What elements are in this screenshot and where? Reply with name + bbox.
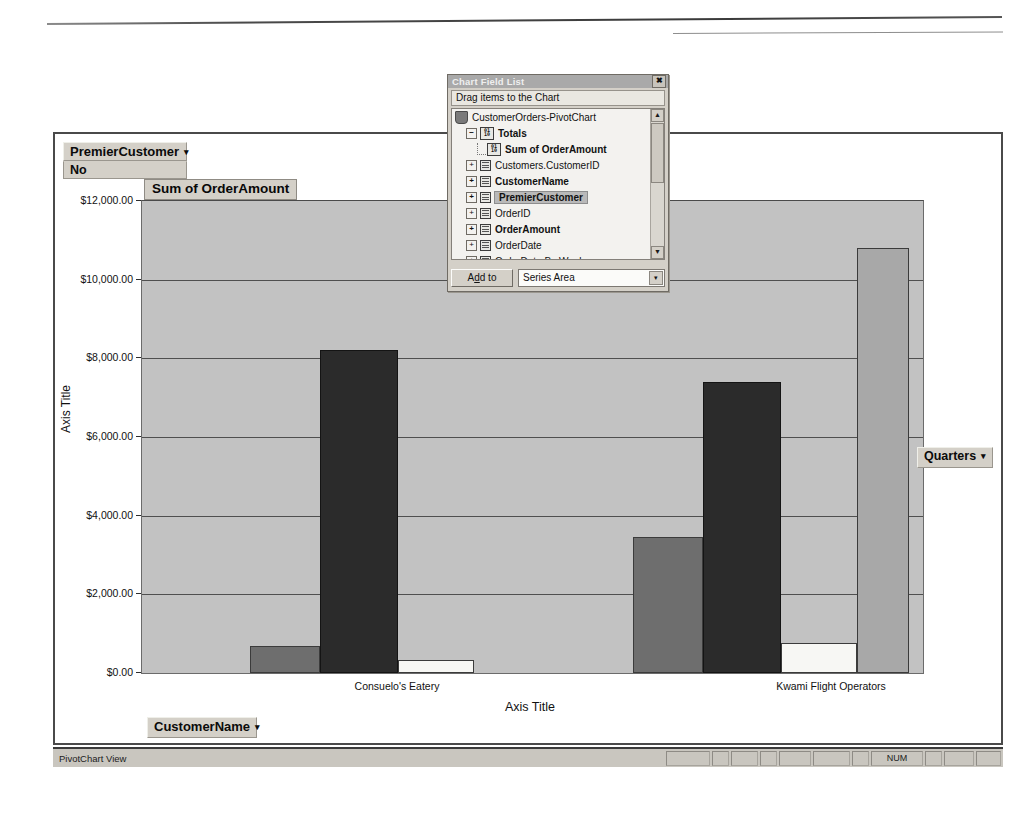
series-field-button[interactable]: Quarters▾ bbox=[917, 447, 993, 468]
field-list-scrollbar[interactable]: ▲ ▼ bbox=[650, 109, 664, 259]
field-icon bbox=[480, 160, 491, 171]
gridline bbox=[142, 358, 923, 359]
category-axis-tick-label: Consuelo's Eatery bbox=[287, 680, 507, 692]
dialog-titlebar[interactable]: Chart Field List ✖ bbox=[448, 75, 668, 88]
chevron-down-icon: ▾ bbox=[981, 451, 986, 461]
field-list-item-label: OrderID bbox=[495, 208, 531, 219]
status-panel bbox=[925, 751, 942, 766]
field-list-item-label: CustomerOrders-PivotChart bbox=[472, 112, 596, 123]
scroll-up-icon[interactable]: ▲ bbox=[651, 109, 664, 122]
status-panel bbox=[779, 751, 811, 766]
bar[interactable] bbox=[398, 660, 474, 673]
dialog-footer: Add to Series Area ▾ bbox=[451, 268, 665, 287]
field-list-item[interactable]: +OrderDate By Week bbox=[452, 253, 664, 260]
drop-area-combobox[interactable]: Series Area ▾ bbox=[518, 269, 665, 287]
field-list-item[interactable]: +OrderAmount bbox=[452, 221, 664, 237]
scroll-down-icon[interactable]: ▼ bbox=[651, 246, 664, 259]
scan-artifact-line-second bbox=[673, 32, 1003, 34]
value-axis-tick-label: $4,000.00 bbox=[57, 509, 133, 521]
numeric-icon: 0110 bbox=[480, 127, 494, 140]
chevron-down-icon: ▾ bbox=[255, 722, 260, 732]
expand-icon[interactable]: + bbox=[466, 192, 477, 203]
bar[interactable] bbox=[857, 248, 909, 673]
value-axis-tick-label: $0.00 bbox=[57, 666, 133, 678]
status-panel bbox=[976, 751, 1001, 766]
drop-area-value: Series Area bbox=[523, 272, 575, 283]
field-list-item-label: PremierCustomer bbox=[495, 192, 587, 203]
bar[interactable] bbox=[781, 643, 857, 673]
field-list-item[interactable]: 0110Sum of OrderAmount bbox=[452, 141, 664, 157]
status-panel bbox=[760, 751, 777, 766]
field-list-item-label: Sum of OrderAmount bbox=[505, 144, 607, 155]
value-axis-title: Axis Title bbox=[59, 385, 73, 433]
field-list-item[interactable]: +CustomerName bbox=[452, 173, 664, 189]
field-list-item[interactable]: +Customers.CustomerID bbox=[452, 157, 664, 173]
value-axis-tick-label: $2,000.00 bbox=[57, 587, 133, 599]
dialog-title: Chart Field List bbox=[452, 76, 524, 87]
chart-field-list-dialog[interactable]: Chart Field List ✖ Drag items to the Cha… bbox=[447, 74, 669, 292]
status-view-label: PivotChart View bbox=[59, 753, 126, 764]
category-field-button[interactable]: CustomerName▾ bbox=[147, 717, 257, 738]
expand-icon[interactable]: + bbox=[466, 224, 477, 235]
tree-connector bbox=[477, 143, 486, 155]
expand-icon[interactable]: + bbox=[466, 176, 477, 187]
status-bar: PivotChart View NUM bbox=[53, 747, 1003, 767]
status-panel bbox=[813, 751, 850, 766]
field-icon bbox=[480, 256, 491, 261]
chevron-down-icon: ▾ bbox=[184, 147, 189, 157]
expand-icon[interactable]: + bbox=[466, 208, 477, 219]
chevron-down-icon[interactable]: ▾ bbox=[649, 271, 663, 285]
add-to-post: d to bbox=[480, 272, 497, 283]
axis-tick bbox=[136, 672, 141, 673]
field-list-item[interactable]: +OrderDate bbox=[452, 237, 664, 253]
expand-icon[interactable]: + bbox=[466, 160, 477, 171]
bar[interactable] bbox=[703, 382, 781, 673]
field-icon bbox=[480, 192, 491, 203]
category-axis-title: Axis Title bbox=[55, 700, 1005, 714]
field-list-item[interactable]: CustomerOrders-PivotChart bbox=[452, 109, 664, 125]
axis-tick bbox=[136, 200, 141, 201]
axis-tick bbox=[136, 515, 141, 516]
field-list-item-label: Customers.CustomerID bbox=[495, 160, 599, 171]
expand-icon[interactable]: + bbox=[466, 240, 477, 251]
category-axis-tick-label: Kwami Flight Operators bbox=[721, 680, 941, 692]
status-panel bbox=[944, 751, 974, 766]
dialog-prompt: Drag items to the Chart bbox=[451, 90, 665, 106]
status-panel bbox=[852, 751, 869, 766]
scan-artifact-line-top bbox=[47, 16, 1002, 25]
status-panel bbox=[731, 751, 758, 766]
field-list-item-label: Totals bbox=[498, 128, 527, 139]
plot-title: Sum of OrderAmount bbox=[144, 179, 297, 200]
value-axis-tick-label: $8,000.00 bbox=[57, 351, 133, 363]
book-icon bbox=[455, 111, 468, 124]
filter-field-button[interactable]: PremierCustomer▾ bbox=[63, 142, 187, 161]
status-indicator-panels: NUM bbox=[666, 751, 1001, 766]
field-list-item-label: OrderDate bbox=[495, 240, 542, 251]
collapse-icon[interactable]: − bbox=[466, 128, 477, 139]
scrollbar-thumb[interactable] bbox=[651, 123, 664, 183]
field-list-item[interactable]: +OrderID bbox=[452, 205, 664, 221]
add-to-button[interactable]: Add to bbox=[451, 269, 513, 287]
bar[interactable] bbox=[250, 646, 320, 673]
axis-tick bbox=[136, 357, 141, 358]
axis-tick bbox=[136, 279, 141, 280]
field-list-item[interactable]: −0110Totals bbox=[452, 125, 664, 141]
filter-field-value[interactable]: No bbox=[63, 161, 187, 179]
series-field-label: Quarters bbox=[924, 449, 976, 463]
expand-icon[interactable]: + bbox=[466, 256, 477, 261]
close-icon[interactable]: ✖ bbox=[652, 75, 666, 88]
field-tree-list[interactable]: ▲ ▼ CustomerOrders-PivotChart−0110Totals… bbox=[451, 108, 665, 260]
status-panel bbox=[666, 751, 710, 766]
bar[interactable] bbox=[320, 350, 398, 673]
axis-tick bbox=[136, 593, 141, 594]
gridline bbox=[142, 437, 923, 438]
field-icon bbox=[480, 208, 491, 219]
field-icon bbox=[480, 240, 491, 251]
field-list-item[interactable]: +PremierCustomer bbox=[452, 189, 664, 205]
field-list-item-label: OrderDate By Week bbox=[495, 256, 584, 261]
gridline bbox=[142, 516, 923, 517]
category-field-label: CustomerName bbox=[154, 719, 250, 734]
filter-field-label: PremierCustomer bbox=[70, 144, 179, 159]
bar[interactable] bbox=[633, 537, 703, 673]
value-axis-tick-label: $12,000.00 bbox=[57, 194, 133, 206]
